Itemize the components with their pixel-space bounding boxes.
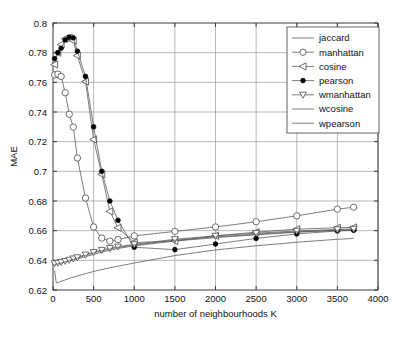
x-tick-label: 3000 <box>286 293 307 304</box>
marker-circle-open <box>212 224 218 230</box>
marker-dot-filled <box>301 78 306 83</box>
y-tick-label: 0.74 <box>29 107 48 118</box>
marker-circle-open <box>99 235 105 241</box>
marker-circle-open <box>90 224 96 230</box>
x-tick-label: 500 <box>86 293 102 304</box>
legend-label: manhattan <box>319 47 364 58</box>
marker-dot-filled <box>71 36 76 41</box>
marker-circle-open <box>62 90 68 96</box>
marker-dot-filled <box>63 38 68 43</box>
marker-dot-filled <box>116 218 121 223</box>
marker-dot-filled <box>213 242 218 247</box>
marker-dot-filled <box>173 247 178 252</box>
marker-circle-open <box>74 155 80 161</box>
marker-dot-filled <box>99 169 104 174</box>
marker-dot-filled <box>108 199 113 204</box>
x-tick-label: 0 <box>50 293 55 304</box>
marker-circle-open <box>294 213 300 219</box>
marker-circle-open <box>66 111 72 117</box>
chart-legend: jaccardmanhattancosinepearsonwmanhattanw… <box>287 27 379 133</box>
legend-label: pearson <box>319 75 353 86</box>
y-tick-label: 0.7 <box>34 166 47 177</box>
marker-circle-open <box>115 236 121 242</box>
marker-dot-filled <box>52 56 57 61</box>
legend-label: wmanhattan <box>318 89 371 100</box>
marker-circle-open <box>131 233 137 239</box>
x-tick-label: 2000 <box>205 293 226 304</box>
x-tick-label: 3500 <box>327 293 348 304</box>
x-axis-title: number of neighbourhoods K <box>154 308 277 319</box>
y-tick-label: 0.72 <box>29 136 48 147</box>
legend-label: wpearson <box>318 118 360 129</box>
y-tick-label: 0.76 <box>29 77 48 88</box>
marker-circle-open <box>300 49 306 55</box>
marker-dot-filled <box>91 125 96 130</box>
chart-figure: 05001000150020002500300035004000 0.620.6… <box>0 0 414 337</box>
x-tick-label: 1500 <box>164 293 185 304</box>
marker-dot-filled <box>56 50 61 55</box>
x-tick-labels: 05001000150020002500300035004000 <box>50 293 388 304</box>
marker-circle-open <box>253 219 259 225</box>
marker-circle-open <box>58 73 64 79</box>
marker-dot-filled <box>83 74 88 79</box>
x-tick-label: 1000 <box>124 293 145 304</box>
x-tick-label: 2500 <box>246 293 267 304</box>
y-tick-label: 0.78 <box>29 47 48 58</box>
marker-dot-filled <box>75 49 80 54</box>
legend-label: wcosine <box>318 103 353 114</box>
marker-circle-open <box>82 195 88 201</box>
marker-circle-open <box>70 124 76 130</box>
marker-circle-open <box>107 238 113 244</box>
marker-circle-open <box>172 228 178 234</box>
legend-label: cosine <box>319 61 346 72</box>
y-axis-title: MAE <box>8 146 19 167</box>
marker-circle-open <box>350 204 356 210</box>
legend-label: jaccard <box>318 32 350 43</box>
y-tick-label: 0.62 <box>29 285 48 296</box>
y-tick-label: 0.64 <box>29 255 48 266</box>
y-tick-label: 0.66 <box>29 225 48 236</box>
chart-svg: 05001000150020002500300035004000 0.620.6… <box>0 0 414 337</box>
y-tick-label: 0.68 <box>29 196 48 207</box>
y-tick-label: 0.8 <box>34 18 47 29</box>
marker-circle-open <box>334 206 340 212</box>
x-tick-label: 4000 <box>367 293 388 304</box>
marker-dot-filled <box>59 46 64 51</box>
